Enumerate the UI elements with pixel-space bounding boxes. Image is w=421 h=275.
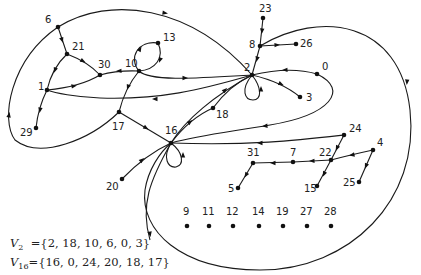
node-label-15: 15 bbox=[304, 183, 317, 194]
node-2 bbox=[250, 73, 255, 78]
arrowhead-icon bbox=[257, 141, 263, 145]
node-5 bbox=[236, 186, 241, 191]
arrowhead-icon bbox=[270, 161, 276, 165]
edge-13-to-10 bbox=[139, 43, 160, 71]
node-label-24: 24 bbox=[349, 123, 362, 134]
set-v16-subscript: 16 bbox=[18, 263, 28, 272]
arrowhead-icon bbox=[282, 68, 288, 73]
directed-graph: 6213010131291716182823260324422731515252… bbox=[0, 0, 421, 275]
node-label-22: 22 bbox=[319, 147, 332, 158]
node-label-1: 1 bbox=[38, 81, 44, 92]
node-label-5: 5 bbox=[228, 183, 234, 194]
edge-21-to-30 bbox=[67, 54, 100, 75]
node-10 bbox=[137, 69, 142, 74]
graph-edges bbox=[9, 10, 411, 270]
edge-0-to-16 bbox=[171, 74, 333, 143]
edge-10-to-17 bbox=[119, 71, 139, 112]
node-4 bbox=[371, 148, 376, 153]
edge-2-to-1 bbox=[47, 75, 252, 98]
node-label-16: 16 bbox=[165, 125, 178, 136]
node-label-9: 9 bbox=[183, 206, 189, 217]
node-label-14: 14 bbox=[252, 206, 265, 217]
set-v16: V16={16, 0, 24, 20, 18, 17} bbox=[10, 255, 170, 274]
set-v2-value: ={2, 18, 10, 6, 0, 3} bbox=[31, 236, 150, 250]
arrowhead-icon bbox=[363, 163, 369, 170]
arrowhead-icon bbox=[254, 56, 260, 62]
arrowhead-icon bbox=[59, 37, 65, 44]
arrowhead-icon bbox=[143, 125, 150, 132]
node-0 bbox=[315, 72, 320, 77]
node-16 bbox=[169, 141, 174, 146]
node-27 bbox=[305, 224, 310, 229]
node-29 bbox=[34, 126, 39, 131]
node-label-10: 10 bbox=[125, 58, 138, 69]
graph-nodes bbox=[34, 16, 376, 229]
node-30 bbox=[98, 73, 103, 78]
edge-24-to-16 bbox=[171, 135, 344, 144]
node-label-17: 17 bbox=[112, 121, 125, 132]
node-3 bbox=[298, 95, 303, 100]
edge-1-to-30 bbox=[47, 75, 100, 90]
node-28 bbox=[329, 224, 334, 229]
edge-20-to-16 bbox=[122, 143, 171, 179]
set-v2: V2 ={2, 18, 10, 6, 0, 3} bbox=[10, 236, 170, 255]
arrowhead-icon bbox=[71, 83, 77, 88]
arrowhead-icon bbox=[162, 10, 168, 15]
edge-10-to-2 bbox=[139, 71, 252, 78]
node-17 bbox=[117, 110, 122, 115]
node-22 bbox=[329, 158, 334, 163]
arrowhead-icon bbox=[334, 145, 340, 152]
edge-8-to-16 bbox=[145, 27, 411, 270]
node-19 bbox=[281, 224, 286, 229]
arrowhead-icon bbox=[37, 107, 42, 113]
node-label-27: 27 bbox=[300, 206, 313, 217]
node-26 bbox=[294, 42, 299, 47]
node-label-19: 19 bbox=[276, 206, 289, 217]
node-14 bbox=[257, 224, 262, 229]
arrowhead-icon bbox=[183, 76, 189, 80]
arrowhead-icon bbox=[309, 159, 315, 164]
node-label-2: 2 bbox=[244, 62, 250, 73]
node-label-13: 13 bbox=[163, 32, 176, 43]
node-label-8: 8 bbox=[249, 39, 255, 50]
node-6 bbox=[56, 25, 61, 30]
arrowhead-icon bbox=[116, 69, 122, 74]
node-11 bbox=[207, 224, 212, 229]
node-label-21: 21 bbox=[72, 41, 85, 52]
node-label-11: 11 bbox=[202, 206, 215, 217]
node-label-18: 18 bbox=[216, 109, 229, 120]
arrowhead-icon bbox=[181, 152, 185, 158]
node-13 bbox=[156, 41, 161, 46]
node-7 bbox=[291, 160, 296, 165]
node-label-12: 12 bbox=[226, 206, 239, 217]
edge-10-to-13 bbox=[134, 43, 158, 71]
node-label-4: 4 bbox=[377, 137, 383, 148]
node-label-23: 23 bbox=[259, 3, 272, 14]
node-label-3: 3 bbox=[306, 92, 312, 103]
edge-21-to-1 bbox=[47, 54, 67, 90]
node-18 bbox=[211, 106, 216, 111]
arrowhead-icon bbox=[274, 43, 280, 48]
node-label-0: 0 bbox=[322, 61, 328, 72]
node-12 bbox=[231, 224, 236, 229]
vertex-set-annotations: V2 ={2, 18, 10, 6, 0, 3} V16={16, 0, 24,… bbox=[10, 236, 170, 275]
set-v16-value: ={16, 0, 24, 20, 18, 17} bbox=[29, 255, 170, 269]
node-20 bbox=[120, 177, 125, 182]
node-label-31: 31 bbox=[247, 147, 260, 158]
node-label-26: 26 bbox=[300, 38, 313, 49]
edge-8-to-2 bbox=[252, 46, 260, 75]
arrowhead-icon bbox=[262, 124, 268, 129]
node-25 bbox=[357, 180, 362, 185]
edge-2-to-2 bbox=[245, 75, 260, 100]
arrowhead-icon bbox=[405, 79, 410, 85]
arrowhead-icon bbox=[152, 97, 158, 101]
node-31 bbox=[251, 161, 256, 166]
node-label-7: 7 bbox=[290, 147, 296, 158]
node-21 bbox=[65, 52, 70, 57]
node-24 bbox=[342, 133, 347, 138]
node-labels: 6213010131291716182823260324422731515252… bbox=[20, 3, 383, 217]
node-label-30: 30 bbox=[98, 59, 111, 70]
node-label-25: 25 bbox=[343, 177, 356, 188]
arrowhead-icon bbox=[260, 28, 265, 34]
node-label-29: 29 bbox=[20, 127, 33, 138]
